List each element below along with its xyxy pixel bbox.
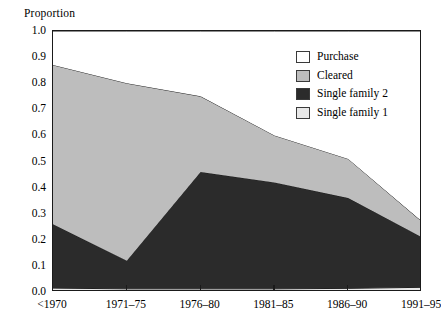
x-axis-tick-label: 1981–85 bbox=[253, 298, 293, 310]
y-axis-tick-label: 0.8 bbox=[6, 76, 46, 88]
legend-item: Cleared bbox=[296, 69, 388, 83]
y-axis-title: Proportion bbox=[24, 7, 75, 19]
y-axis-tick-label: 0.2 bbox=[6, 233, 46, 245]
legend-item-label: Cleared bbox=[317, 70, 353, 82]
chart-legend: PurchaseClearedSingle family 2Single fam… bbox=[296, 50, 388, 120]
y-axis-tick-label: 0.5 bbox=[6, 155, 46, 167]
legend-item: Single family 2 bbox=[296, 87, 388, 101]
y-axis-tick-label: 1.0 bbox=[6, 24, 46, 36]
y-axis-tick-label: 0.0 bbox=[6, 285, 46, 297]
y-axis-tick-label: 0.1 bbox=[6, 259, 46, 271]
x-axis-tick-mark bbox=[273, 285, 274, 290]
x-axis-tick-label: 1986–90 bbox=[327, 298, 367, 310]
legend-item: Single family 1 bbox=[296, 106, 388, 120]
legend-swatch-icon bbox=[296, 70, 310, 82]
x-axis-tick-mark bbox=[200, 285, 201, 290]
legend-item-label: Single family 1 bbox=[317, 107, 388, 119]
legend-item-label: Purchase bbox=[317, 51, 359, 63]
y-axis-tick-label: 0.6 bbox=[6, 128, 46, 140]
legend-item: Purchase bbox=[296, 50, 388, 64]
y-axis-tick-label: 0.7 bbox=[6, 102, 46, 114]
y-axis-tick-label: 0.3 bbox=[6, 207, 46, 219]
x-axis-tick-label: 1991–95 bbox=[401, 298, 441, 310]
x-axis-tick-mark bbox=[347, 285, 348, 290]
y-axis-tick-label: 0.4 bbox=[6, 181, 46, 193]
x-axis-tick-label: 1971–75 bbox=[106, 298, 146, 310]
legend-swatch-icon bbox=[296, 107, 310, 119]
legend-swatch-icon bbox=[296, 51, 310, 63]
legend-swatch-icon bbox=[296, 88, 310, 100]
y-axis-tick-label: 0.9 bbox=[6, 50, 46, 62]
x-axis-tick-label: <1970 bbox=[37, 298, 67, 310]
x-axis-tick-label: 1976–80 bbox=[179, 298, 219, 310]
x-axis-tick-mark bbox=[126, 285, 127, 290]
legend-item-label: Single family 2 bbox=[317, 88, 388, 100]
